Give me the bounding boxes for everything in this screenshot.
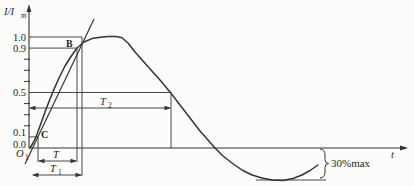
x-axis-label: t	[391, 149, 395, 160]
y-axis-label: I/I	[3, 6, 14, 17]
virtual-origin-subscript: 1	[25, 153, 29, 162]
x-axis-arrow	[400, 146, 408, 151]
dimension-arrow-left-T	[38, 159, 45, 163]
front-slope-line	[25, 19, 94, 164]
t2-dimension-label: T	[100, 96, 107, 107]
waveform-curve	[30, 37, 318, 181]
dimension-arrow-left-T1	[32, 173, 39, 177]
virtual-origin-label: O	[16, 148, 24, 159]
ytick-1.0: 1.0	[13, 32, 26, 43]
undershoot-limit-label: 30%max	[331, 157, 371, 169]
impulse-waveform-figure: I/I m 1.0 0.9 0.5 0.1 0.0 B C O 1 T 2 T …	[0, 0, 414, 186]
chart-geometry	[24, 4, 408, 181]
t-dimension-label: T	[53, 149, 60, 160]
dimension-arrow-left-T2	[29, 106, 36, 110]
dimension-arrow-right-T1	[76, 173, 83, 177]
point-c-label: C	[41, 129, 48, 140]
ytick-0.5: 0.5	[13, 87, 26, 98]
dimension-arrow-right-T	[71, 159, 78, 163]
y-axis-arrow	[27, 4, 32, 12]
dimension-arrow-right-T2	[165, 106, 172, 110]
waveform-chart: I/I m 1.0 0.9 0.5 0.1 0.0 B C O 1 T 2 T …	[0, 0, 414, 186]
t2-dimension-subscript: 2	[108, 101, 112, 110]
t1-dimension-subscript: 1	[58, 168, 62, 177]
ytick-0.1: 0.1	[13, 127, 26, 138]
y-axis-label-subscript: m	[21, 11, 27, 20]
undershoot-brace	[320, 149, 329, 178]
t1-dimension-label: T	[50, 163, 57, 174]
point-b-label: B	[66, 38, 73, 49]
ytick-0.9: 0.9	[13, 43, 26, 54]
